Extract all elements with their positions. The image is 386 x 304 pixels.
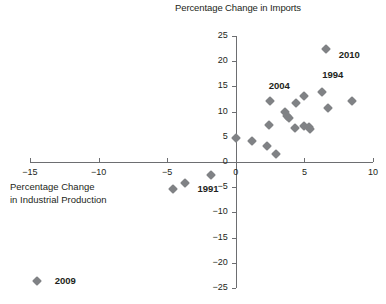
y-axis-tick-label: −15 bbox=[202, 232, 228, 242]
x-axis-caption-line2: in Industrial Production bbox=[10, 193, 107, 206]
y-axis-tick bbox=[232, 112, 236, 113]
data-point bbox=[206, 170, 216, 180]
y-axis-tick bbox=[232, 238, 236, 239]
data-point bbox=[32, 276, 42, 286]
y-axis-tick bbox=[232, 86, 236, 87]
x-axis-tick-label: 0 bbox=[219, 167, 253, 177]
data-point bbox=[290, 123, 300, 133]
point-annotation: 2010 bbox=[339, 49, 360, 60]
y-axis-line bbox=[236, 36, 237, 288]
x-axis-tick-label: −15 bbox=[13, 167, 47, 177]
x-axis-tick bbox=[373, 158, 374, 162]
point-annotation: 1994 bbox=[322, 69, 343, 80]
data-point bbox=[247, 136, 257, 146]
data-point bbox=[168, 184, 178, 194]
y-axis-tick-label: 10 bbox=[202, 106, 228, 116]
data-point bbox=[299, 92, 309, 102]
x-axis-tick bbox=[99, 158, 100, 162]
data-point bbox=[321, 44, 331, 54]
y-axis-tick-label: 20 bbox=[202, 55, 228, 65]
data-point bbox=[231, 133, 241, 143]
point-annotation: 2009 bbox=[55, 275, 76, 286]
point-annotation: 1991 bbox=[197, 183, 218, 194]
data-point bbox=[347, 96, 357, 106]
y-axis-tick-label: −25 bbox=[202, 282, 228, 292]
x-axis-tick bbox=[304, 158, 305, 162]
point-annotation: 2004 bbox=[269, 80, 290, 91]
y-axis-tick bbox=[232, 263, 236, 264]
data-point bbox=[271, 149, 281, 159]
chart-title: Percentage Change in Imports bbox=[0, 2, 386, 13]
scatter-chart: Percentage Change in Imports −15−10−5051… bbox=[0, 0, 386, 304]
y-axis-tick bbox=[232, 288, 236, 289]
y-axis-tick bbox=[232, 212, 236, 213]
y-axis-tick bbox=[232, 36, 236, 37]
chart-title-text: Percentage Change in Imports bbox=[175, 2, 301, 13]
x-axis-caption-line1: Percentage Change bbox=[10, 181, 95, 192]
data-point bbox=[317, 87, 327, 97]
data-point bbox=[291, 98, 301, 108]
data-point bbox=[264, 120, 274, 130]
y-axis-tick-label: 15 bbox=[202, 80, 228, 90]
data-point bbox=[265, 96, 275, 106]
y-axis-tick-label: −20 bbox=[202, 257, 228, 267]
y-axis-tick-label: 25 bbox=[202, 30, 228, 40]
data-point bbox=[284, 113, 294, 123]
x-axis-tick-label: 5 bbox=[287, 167, 321, 177]
x-axis-caption: Percentage Change in Industrial Producti… bbox=[10, 180, 107, 206]
x-axis-tick bbox=[236, 158, 237, 162]
y-axis-tick bbox=[232, 187, 236, 188]
x-axis-tick-label: 10 bbox=[356, 167, 386, 177]
y-axis-tick-label: 5 bbox=[202, 131, 228, 141]
data-point bbox=[262, 141, 272, 151]
x-axis-tick bbox=[30, 158, 31, 162]
x-axis-tick-label: −5 bbox=[150, 167, 184, 177]
y-axis-tick bbox=[232, 61, 236, 62]
y-axis-tick-label: −10 bbox=[202, 206, 228, 216]
y-axis-tick-label: 0 bbox=[202, 156, 228, 166]
x-axis-tick-label: −10 bbox=[82, 167, 116, 177]
x-axis-tick bbox=[167, 158, 168, 162]
data-point bbox=[180, 178, 190, 188]
data-point bbox=[323, 103, 333, 113]
